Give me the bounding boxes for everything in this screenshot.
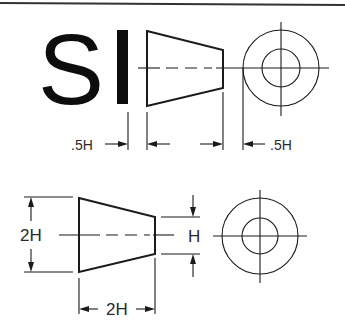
label-length: 2H	[106, 300, 128, 319]
arrowhead	[190, 254, 196, 264]
arrowhead	[243, 141, 253, 147]
letter-i	[117, 30, 128, 104]
letter-s: S	[38, 13, 104, 125]
bottom-section: 2H H 2H	[20, 190, 307, 319]
label-large-diameter: 2H	[20, 226, 42, 245]
label-small-diameter: H	[188, 227, 200, 246]
label-left-gap: .5H	[71, 137, 93, 153]
arrowhead	[147, 141, 157, 147]
arrowhead	[79, 306, 89, 312]
arrowhead	[28, 262, 34, 272]
arrowhead	[213, 141, 223, 147]
top-border-rule	[0, 3, 345, 5]
arrowhead	[145, 306, 155, 312]
symbol-proportions-diagram: S .5H .5H	[0, 0, 345, 335]
label-right-gap: .5H	[270, 137, 292, 153]
arrowhead	[190, 207, 196, 217]
top-section: S .5H .5H	[38, 13, 329, 153]
arrowhead	[118, 141, 128, 147]
arrowhead	[28, 197, 34, 207]
